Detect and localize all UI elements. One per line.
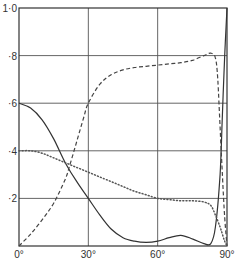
x-tick-label: 60° [150,249,165,260]
y-axis-ticks: ·2·4·6·81·0 [3,3,18,204]
chart: ·2·4·6·81·0 0°30°60°90° [0,0,239,262]
plot-frame [19,8,227,246]
y-tick-label: ·6 [8,98,17,109]
x-tick-label: 0° [14,249,24,260]
grid-lines [19,8,227,246]
y-tick-label: ·2 [8,193,17,204]
y-tick-label: 1·0 [3,3,18,14]
x-tick-label: 90° [219,249,234,260]
x-tick-label: 30° [81,249,96,260]
y-tick-label: ·8 [8,51,17,62]
x-axis-ticks: 0°30°60°90° [14,249,234,260]
series-line-dashed [19,53,227,246]
series-group [19,8,227,246]
y-tick-label: ·4 [8,146,17,157]
